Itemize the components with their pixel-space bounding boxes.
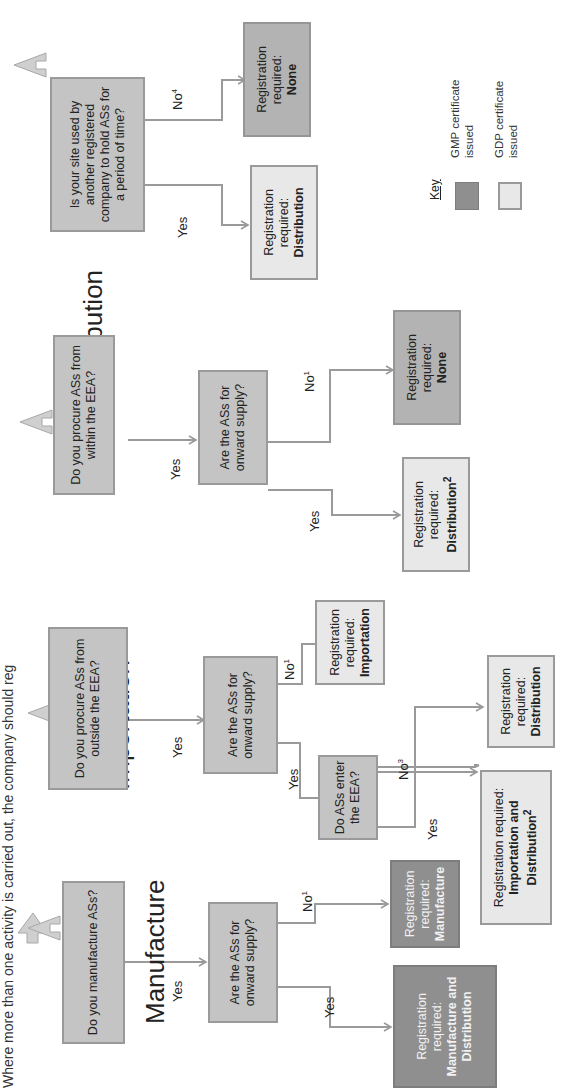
importation-question-1: Do you procure ASs from outside the EEA? (48, 627, 128, 790)
key-title: Key (428, 179, 442, 200)
manufacture-q2-yes-label: Yes (322, 997, 337, 1018)
manufacture-q2-no-label: No1 (300, 891, 315, 912)
result-distribution-holding-branch: Registration required:Distribution (250, 165, 318, 280)
result-manufacture-and-distribution: Registration required:Manufacture and Di… (393, 965, 497, 1088)
manufacture-question-2: Are the ASs for onward supply? (208, 902, 278, 1023)
entry-arrow-holding-icon (14, 53, 46, 77)
distribution-q2-yes-label: Yes (307, 511, 322, 532)
importation-question-3: Do ASs enter the EEA? (318, 755, 378, 840)
importation-q2-no-label: No1 (282, 659, 297, 680)
entry-arrow-distribution-icon (20, 410, 52, 434)
holding-question-1: Is your site used by another registered … (50, 77, 145, 232)
importation-question-2: Are the ASs for onward supply? (203, 656, 278, 774)
holding-q1-yes-label: Yes (175, 217, 190, 238)
importation-q1-yes-label: Yes (170, 737, 185, 758)
result-manufacture: Registration required:Manufacture (390, 860, 460, 948)
entry-arrow-manufacture-icon (28, 916, 60, 940)
importation-q3-yes-label: Yes (425, 819, 440, 840)
result-importation: Registration required:Importation (315, 600, 385, 685)
distribution-question-2: Are the ASs for onward supply? (198, 370, 268, 485)
flowchart-canvas: Where more than one activity is carried … (0, 0, 561, 1090)
key-swatch-gmp (455, 182, 479, 210)
key-label-gmp: GMP certificate issued (448, 58, 477, 158)
importation-q2-yes-label: Yes (286, 769, 301, 790)
result-none-distribution-branch: Registration required:None (393, 310, 461, 425)
result-distribution-importation-branch: Registration required:Distribution (487, 655, 555, 748)
importation-q3-no-label: No3 (396, 759, 411, 780)
key-label-gdp: GDP certificate issued (492, 58, 521, 158)
key-swatch-gdp (498, 182, 522, 210)
holding-q1-no-label: No4 (170, 89, 185, 110)
distribution-question-1: Do you procure ASs from within the EEA? (53, 335, 115, 495)
manufacture-q1-yes-label: Yes (170, 981, 185, 1002)
result-none-holding-branch: Registration required:None (243, 22, 311, 137)
section-title-manufacture: Manufacture (140, 879, 171, 1024)
distribution-q1-yes-label: Yes (168, 459, 183, 480)
manufacture-question-1: Do you manufacture ASs? (62, 881, 125, 1044)
result-importation-and-distribution: Registration required:Importation and Di… (480, 770, 552, 925)
result-distribution: Registration required:Distribution2 (402, 457, 470, 572)
distribution-q2-no-label: No1 (302, 371, 317, 392)
